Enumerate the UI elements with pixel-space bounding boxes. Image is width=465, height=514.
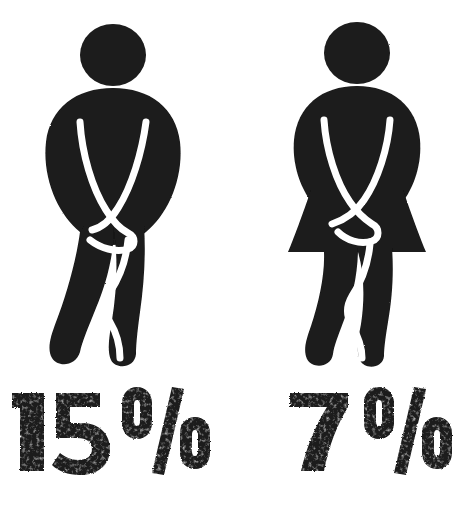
poster-canvas: Man pictogram with crossed legs and clas… xyxy=(0,0,465,514)
male-head-icon xyxy=(80,24,146,86)
pictogram-row: Man pictogram with crossed legs and clas… xyxy=(0,0,465,375)
caption-row: 15% xyxy=(0,375,465,514)
female-torso-icon xyxy=(294,86,421,200)
female-head-icon xyxy=(324,22,390,84)
female-figure: Woman pictogram in skirt with crossed le… xyxy=(262,0,462,375)
male-stat-caption: 15% xyxy=(8,375,223,514)
male-figure: Man pictogram with crossed legs and clas… xyxy=(18,0,218,375)
female-stat-caption: 7% xyxy=(280,375,465,514)
